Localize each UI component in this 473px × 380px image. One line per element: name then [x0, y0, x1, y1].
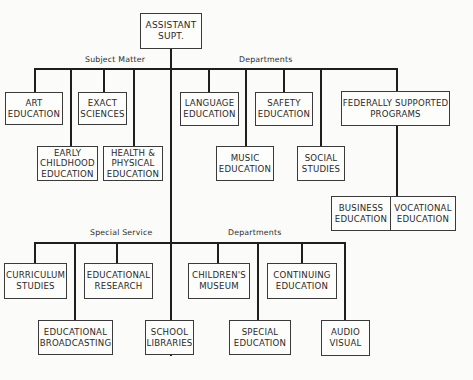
bottom-bus-line: [34, 242, 346, 244]
node-music-education: MUSIC EDUCATION: [216, 146, 274, 181]
node-school-libraries: SCHOOL LIBRARIES: [145, 320, 194, 355]
node-social-studies: SOCIAL STUDIES: [297, 146, 345, 181]
node-safety-education: SAFETY EDUCATION: [255, 92, 313, 126]
node-health-physical-education: HEALTH & PHYSICAL EDUCATION: [103, 146, 163, 181]
node-art-education: ART EDUCATION: [5, 92, 63, 125]
group-label-departments-bottom: Departments: [228, 228, 281, 237]
node-language-education: LANGUAGE EDUCATION: [180, 92, 239, 126]
node-assistant-supt: ASSISTANT SUPT.: [140, 13, 202, 49]
node-continuing-education: CONTINUING EDUCATION: [267, 263, 337, 299]
connector-music: [245, 68, 247, 146]
node-early-childhood-education: EARLY CHILDHOOD EDUCATION: [37, 146, 98, 181]
connector-childrens: [217, 242, 219, 263]
connector-early: [70, 68, 72, 146]
connector-language: [208, 68, 210, 92]
node-exact-sciences: EXACT SCIENCES: [78, 92, 127, 125]
connector-audio: [344, 242, 346, 320]
connector-special: [257, 242, 259, 320]
connector-broadcasting: [74, 242, 76, 320]
group-label-departments-top: Departments: [239, 55, 292, 64]
node-vocational-education: VOCATIONAL EDUCATION: [390, 196, 456, 231]
node-educational-research: EDUCATIONAL RESEARCH: [84, 263, 153, 299]
group-label-subject-matter: Subject Matter: [85, 55, 145, 64]
connector-social: [320, 68, 322, 146]
node-federally-supported-programs: FEDERALLY SUPPORTED PROGRAMS: [341, 91, 450, 126]
connector-research: [116, 242, 118, 263]
connector-curriculum: [34, 242, 36, 263]
connector-continuing: [301, 242, 303, 263]
top-bus-line: [34, 68, 398, 70]
node-curriculum-studies: CURRICULUM STUDIES: [4, 263, 67, 299]
connector-health: [133, 68, 135, 146]
node-audio-visual: AUDIO VISUAL: [321, 320, 370, 356]
connector-art: [34, 68, 36, 92]
org-chart: ASSISTANT SUPT. Subject Matter Departmen…: [0, 0, 473, 380]
connector-federal-sub: [396, 125, 398, 196]
node-educational-broadcasting: EDUCATIONAL BROADCASTING: [38, 320, 113, 355]
connector-safety: [283, 68, 285, 92]
node-business-education: BUSINESS EDUCATION: [331, 196, 391, 231]
connector-federal: [396, 68, 398, 92]
group-label-special-service: Special Service: [90, 228, 152, 237]
connector-exact: [103, 68, 105, 92]
trunk-line: [170, 48, 172, 356]
node-special-education: SPECIAL EDUCATION: [229, 320, 291, 355]
node-childrens-museum: CHILDREN'S MUSEUM: [188, 263, 250, 299]
